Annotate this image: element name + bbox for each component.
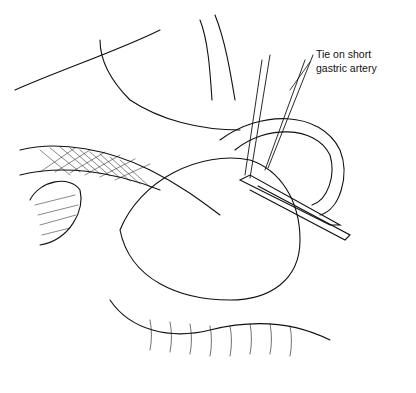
label-line-1: Tie on short: [316, 47, 377, 61]
label-line-2: gastric artery: [316, 61, 377, 75]
annotation-label: Tie on short gastric artery: [316, 47, 377, 75]
